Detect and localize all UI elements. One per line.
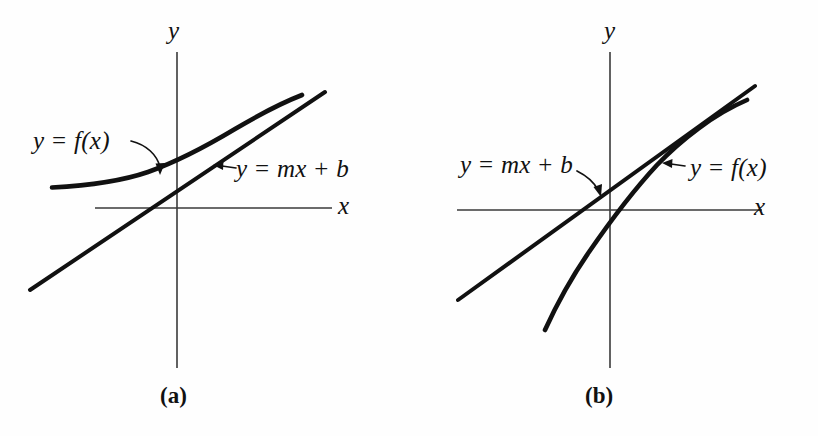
line-equation-equals: = bbox=[254, 155, 270, 182]
curve-equation-lhs: y bbox=[690, 154, 701, 181]
curve-equation-lhs: y bbox=[33, 127, 44, 154]
line-equation-slope-term: mx bbox=[501, 151, 531, 178]
panel-a: y x y = f(x) y = mx + b (a) bbox=[0, 0, 409, 436]
curve-equation-rhs: f(x) bbox=[731, 154, 767, 181]
line-equation-intercept: b bbox=[560, 151, 573, 178]
x-axis-label: x bbox=[754, 194, 765, 219]
line-equation-slope-term: mx bbox=[277, 155, 307, 182]
line-equation-lhs: y bbox=[460, 151, 471, 178]
y-axis-label: y bbox=[604, 18, 615, 43]
x-axis-label: x bbox=[338, 193, 349, 218]
curve-equation-rhs: f(x) bbox=[74, 127, 110, 154]
line-equation-plus: + bbox=[537, 151, 553, 178]
line-equation-label: y = mx + b bbox=[236, 156, 349, 181]
curve-equation-equals: = bbox=[708, 154, 724, 181]
line-equation-lhs: y bbox=[236, 155, 247, 182]
curve-label-leader bbox=[671, 164, 685, 166]
curve-equation-label: y = f(x) bbox=[690, 155, 767, 180]
figure-container: y x y = f(x) y = mx + b (a) bbox=[0, 0, 818, 436]
curve-label-leader bbox=[131, 141, 160, 167]
line-equation-equals: = bbox=[478, 151, 494, 178]
curve-equation-equals: = bbox=[51, 127, 67, 154]
y-axis-label: y bbox=[168, 18, 179, 43]
panel-a-caption: (a) bbox=[160, 383, 187, 409]
line-label-leader bbox=[222, 166, 236, 168]
line-equation-label: y = mx + b bbox=[460, 152, 573, 177]
line-equation-plus: + bbox=[313, 155, 329, 182]
panel-b-caption: (b) bbox=[585, 383, 613, 409]
line-equation-intercept: b bbox=[336, 155, 349, 182]
curve-equation-label: y = f(x) bbox=[33, 128, 110, 153]
panel-b: y x y = mx + b y = f(x) (b) bbox=[409, 0, 818, 436]
